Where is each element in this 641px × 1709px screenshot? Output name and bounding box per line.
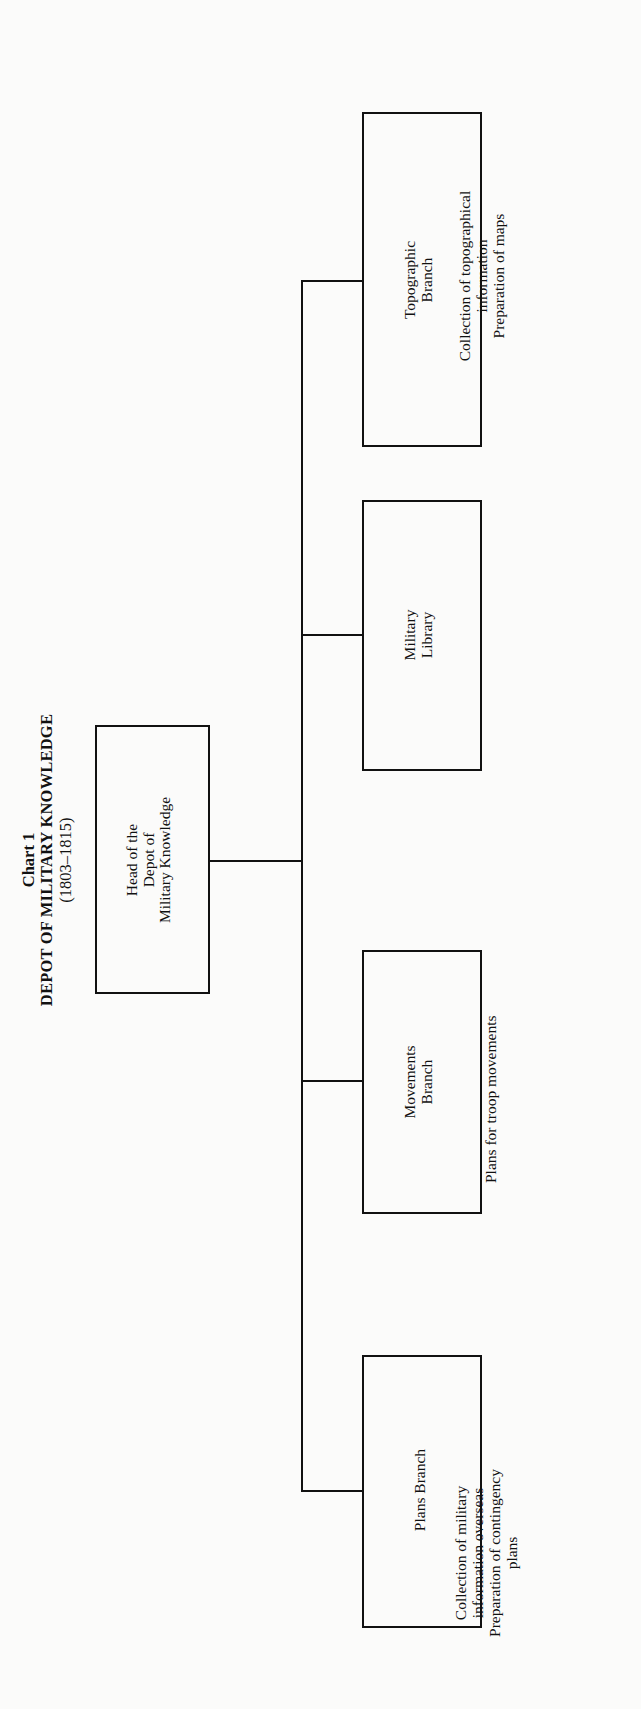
branch-name-line: Topographic bbox=[402, 205, 419, 355]
connector-topographic bbox=[301, 280, 363, 282]
connector-movements bbox=[301, 1080, 363, 1082]
branch-name-line: Library bbox=[419, 570, 436, 700]
description-line: plans bbox=[503, 1438, 520, 1668]
branch-name-line: Military bbox=[402, 570, 419, 700]
chart-years: (1803–1815) bbox=[57, 710, 75, 1010]
head-line: Head of the bbox=[124, 760, 141, 960]
description-line: Collection of military bbox=[452, 1438, 469, 1668]
topographic-branch-description: Collection of topographical information … bbox=[456, 161, 514, 391]
description-line: Plans for troop movements bbox=[482, 953, 499, 1183]
description-line: Preparation of contingency bbox=[486, 1438, 503, 1668]
chart-label: Chart 1 bbox=[20, 710, 38, 1010]
plans-branch-label: Plans Branch bbox=[412, 1425, 432, 1555]
movements-branch-description: Plans for troop movements bbox=[482, 953, 502, 1183]
connector-plans bbox=[301, 1490, 363, 1492]
description-line: information overseas bbox=[469, 1438, 486, 1668]
head-line: Depot of bbox=[141, 760, 158, 960]
branch-name-line: Movements bbox=[402, 1017, 419, 1147]
head-line: Military Knowledge bbox=[157, 760, 174, 960]
chart-title: DEPOT OF MILITARY KNOWLEDGE bbox=[38, 710, 56, 1010]
military-library-label: Military Library bbox=[402, 570, 442, 700]
description-line: Preparation of maps bbox=[490, 161, 507, 391]
topographic-branch-label: Topographic Branch bbox=[402, 205, 442, 355]
branch-name-line: Branch bbox=[419, 1017, 436, 1147]
connector-spine bbox=[301, 280, 303, 1492]
description-line: Collection of topographical bbox=[456, 161, 473, 391]
plans-branch-description: Collection of military information overs… bbox=[452, 1438, 528, 1668]
movements-branch-label: Movements Branch bbox=[402, 1017, 442, 1147]
connector-head bbox=[209, 860, 303, 862]
branch-name-line: Plans Branch bbox=[412, 1425, 429, 1555]
head-label: Head of the Depot of Military Knowledge bbox=[124, 760, 180, 960]
chart-title-block: Chart 1 DEPOT OF MILITARY KNOWLEDGE (180… bbox=[20, 710, 80, 1010]
connector-library bbox=[301, 634, 363, 636]
description-line: information bbox=[473, 161, 490, 391]
branch-name-line: Branch bbox=[419, 205, 436, 355]
